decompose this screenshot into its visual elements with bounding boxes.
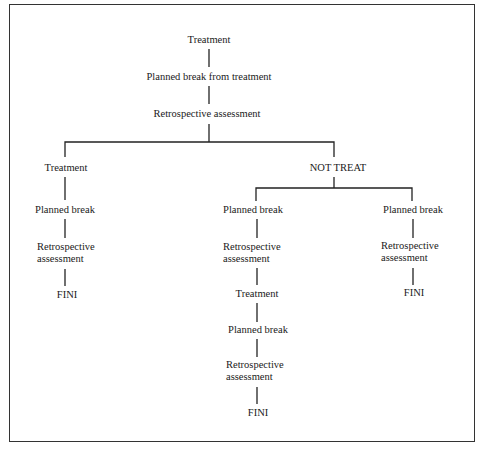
right-planned-break-node: Planned break <box>383 204 443 216</box>
middle-planned-break-node-2: Planned break <box>228 324 288 336</box>
root-planned-break-node: Planned break from treatment <box>146 71 271 83</box>
connector-lines <box>0 0 495 456</box>
middle-retrospective-line1-2: Retrospective <box>226 359 284 371</box>
left-fini-node: FINI <box>57 289 77 301</box>
right-retrospective-line2: assessment <box>381 252 428 264</box>
middle-treatment-node: Treatment <box>236 288 279 300</box>
middle-planned-break-node: Planned break <box>223 204 283 216</box>
middle-retrospective-line2: assessment <box>223 253 270 265</box>
left-planned-break-node: Planned break <box>35 204 95 216</box>
root-treatment-node: Treatment <box>188 34 231 46</box>
left-treatment-node: Treatment <box>45 162 88 174</box>
root-retrospective-assessment-node: Retrospective assessment <box>153 108 260 120</box>
middle-fini-node: FINI <box>248 407 268 419</box>
left-retrospective-line2: assessment <box>37 253 84 265</box>
left-retrospective-line1: Retrospective <box>37 241 95 253</box>
right-fini-node: FINI <box>404 287 424 299</box>
middle-retrospective-line1: Retrospective <box>223 241 281 253</box>
not-treat-node: NOT TREAT <box>310 162 367 174</box>
middle-retrospective-line2-2: assessment <box>226 371 273 383</box>
right-retrospective-line1: Retrospective <box>381 240 439 252</box>
